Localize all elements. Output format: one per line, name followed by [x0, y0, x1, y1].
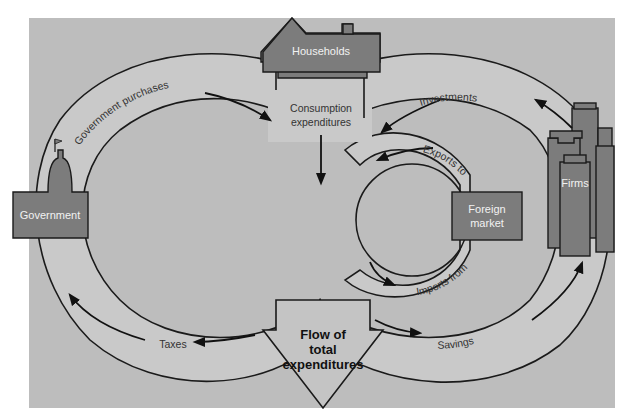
government-label: Government: [20, 209, 81, 221]
consumption-label-1: Consumption: [290, 102, 352, 114]
circular-flow-diagram: Households Government Firms Foreign mark…: [0, 0, 630, 415]
center-label-1: Flow of: [300, 327, 346, 342]
center-label-3: expenditures: [283, 357, 364, 372]
households-label: Households: [292, 45, 351, 57]
foreign-market-label-1: Foreign: [468, 203, 505, 215]
firms-label: Firms: [561, 177, 589, 189]
center-label-2: total: [309, 342, 336, 357]
consumption-label-2: expenditures: [291, 116, 351, 128]
foreign-market-node: Foreign market: [452, 192, 522, 240]
taxes-label: Taxes: [159, 338, 186, 350]
foreign-market-label-2: market: [470, 217, 504, 229]
